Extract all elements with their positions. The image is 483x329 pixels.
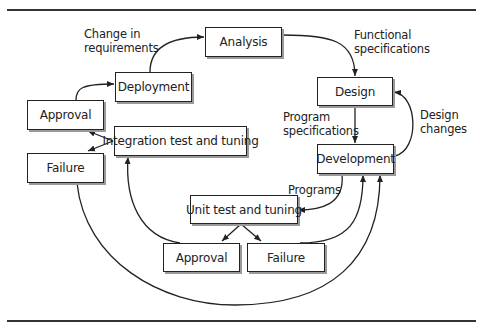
unit-approval-label: Approval xyxy=(176,251,228,265)
deployment-box: Deployment xyxy=(115,72,192,102)
change-req-line2: requirements xyxy=(84,41,159,55)
design-changes-line1: Design xyxy=(420,108,467,122)
integration-failure-box: Failure xyxy=(27,153,104,183)
analysis-label: Analysis xyxy=(220,35,268,49)
integration-failure-label: Failure xyxy=(46,161,84,175)
programs-line: Programs xyxy=(288,183,341,197)
change-requirements-label: Change in requirements xyxy=(84,27,159,55)
functional-specs-line1: Functional xyxy=(354,28,430,42)
program-specs-label: Program specifications xyxy=(283,110,359,138)
change-req-line1: Change in xyxy=(84,27,159,41)
programs-label: Programs xyxy=(288,183,341,197)
unit-approval-box: Approval xyxy=(163,243,240,272)
unit-failure-label: Failure xyxy=(267,251,305,265)
unit-test-box: Unit test and tuning xyxy=(190,195,298,224)
integration-approval-box: Approval xyxy=(27,100,104,130)
design-changes-label: Design changes xyxy=(420,108,467,136)
functional-specs-label: Functional specifications xyxy=(354,28,430,56)
deployment-label: Deployment xyxy=(118,80,189,94)
program-specs-line1: Program xyxy=(283,110,359,124)
integration-box: Integration test and tuning xyxy=(114,126,247,156)
integration-approval-label: Approval xyxy=(40,108,92,122)
development-label: Development xyxy=(316,152,395,166)
functional-specs-line2: specifications xyxy=(354,42,430,56)
unit-test-label: Unit test and tuning xyxy=(186,203,302,217)
development-box: Development xyxy=(317,144,394,174)
design-label: Design xyxy=(335,85,375,99)
integration-label: Integration test and tuning xyxy=(102,134,258,148)
program-specs-line2: specifications xyxy=(283,124,359,138)
design-changes-line2: changes xyxy=(420,122,467,136)
unit-failure-box: Failure xyxy=(247,243,325,272)
design-box: Design xyxy=(317,77,393,106)
analysis-box: Analysis xyxy=(205,27,282,57)
